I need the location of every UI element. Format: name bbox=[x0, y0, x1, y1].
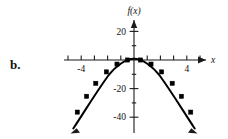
data-point-marker bbox=[160, 70, 164, 74]
data-point-marker bbox=[115, 62, 119, 66]
x-axis-label: x bbox=[210, 55, 216, 65]
y-tick-label-neg40: -40 bbox=[113, 112, 126, 122]
curve-right-arrowhead bbox=[188, 128, 198, 133]
x-tick-label-neg4: -4 bbox=[77, 64, 85, 74]
data-point-marker bbox=[75, 110, 79, 114]
data-point-marker bbox=[179, 94, 183, 98]
y-tick-label-20: 20 bbox=[117, 27, 127, 37]
x-axis-arrowhead bbox=[198, 57, 206, 64]
data-point-marker bbox=[170, 81, 174, 85]
graph-figure: -4 4 20 -20 -40 f(x) x bbox=[0, 0, 228, 139]
data-point-marker bbox=[149, 62, 153, 66]
data-point-marker bbox=[189, 110, 193, 114]
x-tick-label-4: 4 bbox=[184, 64, 189, 74]
data-point-marker bbox=[85, 94, 89, 98]
y-axis-label: f(x) bbox=[127, 6, 140, 17]
data-point-marker bbox=[125, 58, 129, 62]
y-tick-label-neg20: -20 bbox=[113, 84, 126, 94]
data-point-marker bbox=[94, 81, 98, 85]
y-axis-arrowhead bbox=[131, 20, 137, 28]
data-point-marker bbox=[104, 70, 108, 74]
function-plot: -4 4 20 -20 -40 f(x) x bbox=[0, 0, 228, 139]
curve-left-arrowhead bbox=[71, 128, 81, 133]
data-point-marker bbox=[138, 58, 142, 62]
